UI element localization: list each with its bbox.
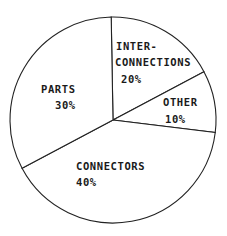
slice-label-parts: PARTS [41, 84, 76, 95]
slice-label-other: OTHER [163, 97, 198, 108]
slice-value-other: 10% [165, 114, 186, 125]
slice-label-connectors: CONNECTORS [76, 161, 145, 172]
pie-chart [0, 0, 227, 236]
slice-value-interconnections: 20% [121, 74, 142, 85]
slice-value-parts: 30% [55, 100, 76, 111]
slice-label-interconnections-line1: INTER- [116, 41, 158, 52]
slice-value-connectors: 40% [76, 177, 97, 188]
slice-label-interconnections-line2: CONNECTIONS [115, 57, 191, 68]
